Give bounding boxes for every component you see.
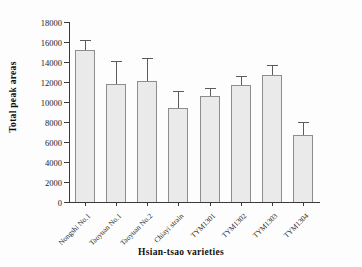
x-tick-mark [85, 202, 86, 206]
y-tick-mark [64, 82, 69, 83]
y-tick-label: 6000 [16, 138, 62, 148]
bar [137, 81, 157, 202]
x-tick-mark [210, 202, 211, 206]
y-tick-mark [64, 122, 69, 123]
y-tick-mark [64, 162, 69, 163]
y-tick-mark [64, 142, 69, 143]
y-tick-mark [64, 202, 69, 203]
error-bar-cap [267, 65, 278, 66]
x-tick-mark [241, 202, 242, 206]
x-axis-line [69, 202, 320, 203]
error-bar-cap [236, 76, 247, 77]
error-bar-line [303, 122, 304, 135]
y-tick-mark [64, 42, 69, 43]
y-tick-label: 14000 [16, 58, 62, 68]
error-bar-cap [80, 40, 91, 41]
y-tick-mark [64, 22, 69, 23]
error-bar-cap [173, 91, 184, 92]
error-bar-line [178, 91, 179, 108]
y-tick-label: 0 [16, 198, 62, 208]
error-bar-line [116, 61, 117, 84]
error-bar-cap [142, 58, 153, 59]
bar [75, 50, 95, 202]
error-bar-line [210, 88, 211, 96]
error-bar-line [85, 40, 86, 51]
x-tick-mark [116, 202, 117, 206]
error-bar-cap [111, 61, 122, 62]
bar [293, 135, 313, 202]
y-tick-label: 12000 [16, 78, 62, 88]
error-bar-cap [298, 122, 309, 123]
y-tick-label: 8000 [16, 118, 62, 128]
x-axis-title: Hsian-tsao varieties [0, 247, 362, 257]
x-tick-mark [303, 202, 304, 206]
error-bar-line [241, 76, 242, 85]
y-tick-mark [64, 182, 69, 183]
error-bar-line [147, 58, 148, 81]
y-tick-label: 4000 [16, 158, 62, 168]
error-bar-line [272, 65, 273, 75]
bar [200, 96, 220, 203]
y-tick-label: 2000 [16, 178, 62, 188]
y-tick-mark [64, 62, 69, 63]
y-tick-label: 18000 [16, 18, 62, 28]
y-tick-mark [64, 102, 69, 103]
y-axis-line [69, 22, 70, 203]
x-tick-mark [272, 202, 273, 206]
bar [106, 84, 126, 203]
chart-figure: Total peak areas 02000400060008000100001… [0, 0, 362, 267]
bar [262, 75, 282, 202]
y-tick-label: 16000 [16, 38, 62, 48]
x-tick-mark [147, 202, 148, 206]
bar [231, 85, 251, 202]
x-tick-mark [178, 202, 179, 206]
y-tick-label: 10000 [16, 98, 62, 108]
error-bar-cap [205, 88, 216, 89]
bar [168, 108, 188, 203]
